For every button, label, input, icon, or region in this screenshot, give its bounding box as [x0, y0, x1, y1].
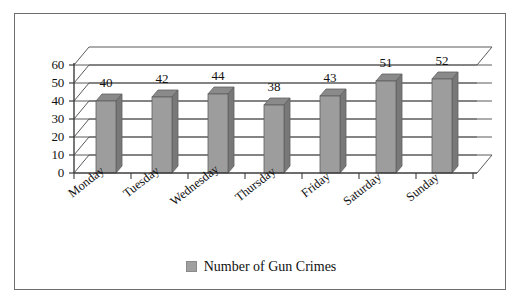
- y-tick-label-60: 60: [38, 58, 64, 71]
- bar-tuesday[interactable]: [152, 90, 178, 173]
- bar-saturday[interactable]: [376, 74, 402, 173]
- y-tick-label-40: 40: [38, 94, 64, 107]
- y-tick-label-0: 0: [38, 166, 64, 179]
- data-label-tuesday: 42: [147, 72, 177, 85]
- bar-sunday[interactable]: [432, 72, 458, 173]
- bar-friday[interactable]: [320, 89, 346, 173]
- bar-monday[interactable]: [96, 94, 122, 173]
- bar-wednesday[interactable]: [208, 87, 234, 173]
- data-label-wednesday: 44: [203, 69, 233, 82]
- legend-swatch-icon: [186, 261, 197, 272]
- legend-entry-label: Number of Gun Crimes: [204, 259, 337, 274]
- data-label-thursday: 38: [259, 80, 289, 93]
- y-tick-label-30: 30: [38, 112, 64, 125]
- data-label-saturday: 51: [371, 56, 401, 69]
- bar-thursday[interactable]: [264, 98, 290, 173]
- chart-legend: Number of Gun Crimes: [0, 259, 522, 274]
- y-tick-label-50: 50: [38, 76, 64, 89]
- data-label-sunday: 52: [427, 54, 457, 67]
- y-tick-label-10: 10: [38, 148, 64, 161]
- data-label-monday: 40: [91, 76, 121, 89]
- data-label-friday: 43: [315, 71, 345, 84]
- chart-plot-area: [0, 0, 522, 302]
- y-tick-label-20: 20: [38, 130, 64, 143]
- chart-root: 60 50 40 30 20 10 0 40 42 44 38 43 51 52…: [0, 0, 522, 302]
